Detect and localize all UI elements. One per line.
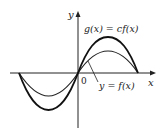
g-curve-label: g(x) = cf(x) <box>84 23 139 34</box>
y-axis-label: y <box>67 9 74 20</box>
x-axis-label: x <box>148 77 154 88</box>
y-axis-arrow-icon <box>76 11 81 17</box>
f-label-leader <box>88 61 98 82</box>
origin-label: 0 <box>81 76 87 86</box>
function-graph: y x 0 g(x) = cf(x) y = f(x) <box>0 0 164 133</box>
x-axis-arrow-icon <box>150 71 156 76</box>
f-curve-label: y = f(x) <box>98 80 135 91</box>
